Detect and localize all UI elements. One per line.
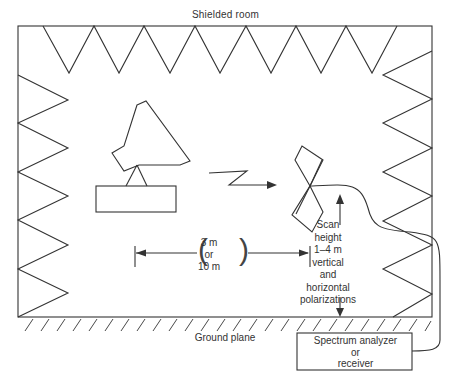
scan-line-1: Scan [288, 219, 368, 232]
scan-line-5: and [288, 269, 368, 282]
distance-line-1: 3 m [183, 237, 235, 249]
antenna-pedestal [96, 186, 176, 212]
signal-arrow-icon [209, 171, 269, 185]
analyzer-line-3: receiver [298, 358, 413, 370]
left-absorber-icon [18, 75, 68, 317]
signal-arrowhead [267, 181, 277, 189]
scan-line-3: 1–4 m [288, 244, 368, 257]
scan-line-7: polarizations [288, 294, 368, 307]
scan-line-4: vertical [288, 257, 368, 270]
distance-arrowhead-left [136, 250, 146, 257]
shielded-room-diagram [0, 0, 451, 379]
distance-line-2: or [183, 249, 235, 261]
cropped-caption [0, 374, 300, 379]
scan-line-6: horizontal [288, 282, 368, 295]
ground-hatch-icon [25, 319, 431, 331]
distance-line-3: 10 m [183, 261, 235, 273]
right-absorber-icon [383, 51, 432, 317]
diagram-title: Shielded room [0, 9, 451, 21]
top-absorber-icon [43, 26, 397, 73]
analyzer-label: Spectrum analyzer or receiver [298, 335, 413, 370]
ground-plane-label: Ground plane [160, 332, 290, 344]
analyzer-line-2: or [298, 347, 413, 359]
scan-line-2: height [288, 232, 368, 245]
horn-antenna-icon [96, 101, 190, 212]
scan-arrowhead-down [336, 308, 344, 317]
distance-label: 3 m or 10 m [183, 237, 235, 273]
scan-height-label: Scan height 1–4 m vertical and horizonta… [288, 219, 368, 307]
paren-right: ) [239, 233, 249, 267]
scan-arrowhead-up [336, 194, 344, 204]
analyzer-line-1: Spectrum analyzer [298, 335, 413, 347]
